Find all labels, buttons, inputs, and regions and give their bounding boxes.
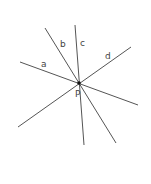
line-label-d: d (105, 51, 111, 61)
lines-through-point-diagram: abcd P (0, 0, 151, 184)
line-label-a: a (41, 59, 47, 69)
line-label-b: b (60, 39, 66, 49)
intersection-label-p: P (75, 89, 81, 99)
lines-group (18, 25, 138, 145)
intersection-point-p (77, 81, 81, 85)
line-d (18, 47, 131, 127)
line-label-c: c (80, 38, 85, 48)
